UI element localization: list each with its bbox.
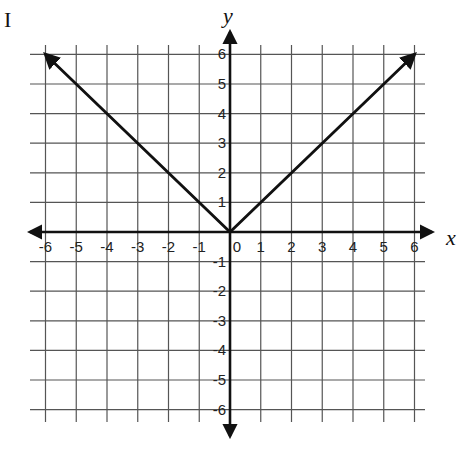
x-tick-label: -4: [100, 238, 113, 255]
y-tick-label: 6: [218, 45, 226, 62]
x-tick-label: -5: [70, 238, 83, 255]
x-tick-label: 6: [410, 238, 418, 255]
y-tick-label: -3: [213, 312, 226, 329]
x-tick-label: 2: [287, 238, 295, 255]
coordinate-plane: -6-5-4-3-2-10123456654321-1-2-3-4-5-6 x …: [0, 0, 475, 449]
y-tick-label: 3: [218, 134, 226, 151]
x-tick-label: 5: [380, 238, 388, 255]
x-tick-label: -1: [193, 238, 206, 255]
x-axis-label: x: [445, 225, 456, 250]
x-tick-label: -3: [131, 238, 144, 255]
x-tick-label: 4: [349, 238, 357, 255]
y-tick-label: -4: [213, 341, 226, 358]
y-tick-label: 2: [218, 164, 226, 181]
y-tick-label: -6: [213, 401, 226, 418]
y-tick-label: -5: [213, 371, 226, 388]
y-tick-label: -1: [213, 253, 226, 270]
figure-marker: I: [4, 7, 11, 32]
x-tick-label: -2: [162, 238, 175, 255]
x-tick-label: 0: [233, 238, 241, 255]
x-tick-label: 1: [257, 238, 265, 255]
y-axis-label: y: [221, 3, 233, 28]
y-tick-label: 1: [218, 193, 226, 210]
y-tick-label: -2: [213, 282, 226, 299]
y-tick-label: 4: [218, 105, 226, 122]
y-tick-label: 5: [218, 75, 226, 92]
x-tick-label: -6: [39, 238, 52, 255]
x-tick-label: 3: [318, 238, 326, 255]
axes: [30, 32, 432, 436]
